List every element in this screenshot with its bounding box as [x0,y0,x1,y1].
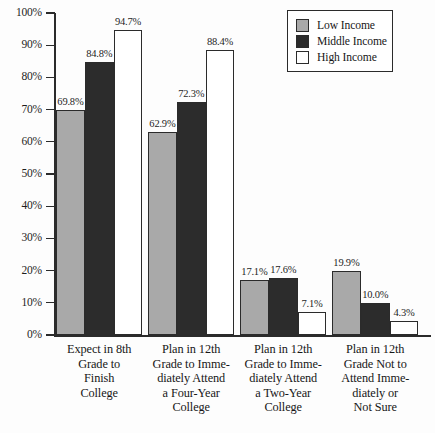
bar-high-income-group-2 [206,50,235,335]
bar-value-label: 17.6% [261,264,306,275]
y-axis-tick [46,206,55,207]
bar-high-income-group-3 [298,312,327,335]
x-axis-label-line: Attend Imme- [319,371,431,386]
y-axis-tick-label: 70% [0,104,42,116]
bar-high-income-group-1 [114,30,143,335]
legend-swatch-high-income-icon [296,51,309,64]
bar-value-label: 7.1% [290,298,335,309]
x-axis-label-line: Not Sure [319,400,431,415]
y-axis-tick-label: 40% [0,200,42,212]
legend-item-middle-income: Middle Income [296,33,385,49]
y-axis-tick [46,238,55,239]
x-axis-label-line: diately or [319,386,431,401]
y-axis-tick-label: 10% [0,297,42,309]
bar-low-income-group-2 [148,132,177,335]
y-axis-tick [46,45,55,46]
legend-swatch-middle-income-icon [296,35,309,48]
legend-label-low-income: Low Income [317,19,375,32]
y-axis-tick [46,334,55,335]
x-axis-line [54,335,431,337]
x-axis-label-group-4: Plan in 12thGrade Not toAttend Imme-diat… [319,342,431,415]
y-axis-tick-label: 60% [0,136,42,148]
bar-value-label: 19.9% [324,257,369,268]
legend-label-middle-income: Middle Income [317,35,387,48]
y-axis-tick [46,77,55,78]
bar-middle-income-group-1 [85,62,114,335]
x-axis-label-line: Grade Not to [319,357,431,372]
y-axis-tick-label: 0% [0,329,42,341]
bar-low-income-group-4 [332,271,361,335]
bar-value-label: 94.7% [106,16,151,27]
y-axis-tick-label: 50% [0,168,42,180]
legend-item-low-income: Low Income [296,17,385,33]
y-axis-tick-label: 90% [0,39,42,51]
x-axis-label-line: Plan in 12th [319,342,431,357]
bar-low-income-group-1 [56,110,85,335]
y-axis-tick-label: 100% [0,7,42,19]
bar-high-income-group-4 [390,321,419,335]
bar-low-income-group-3 [240,280,269,335]
y-axis-tick [46,173,55,174]
bar-value-label: 88.4% [198,36,243,47]
y-axis-tick-label: 30% [0,232,42,244]
bar-chart: 0%10%20%30%40%50%60%70%80%90%100% 69.8%8… [0,0,435,433]
legend-label-high-income: High Income [317,51,377,64]
bar-value-label: 4.3% [382,307,427,318]
bar-middle-income-group-2 [177,102,206,335]
legend-item-high-income: High Income [296,49,385,65]
y-axis-tick [46,302,55,303]
y-axis-tick [46,12,55,13]
y-axis-tick [46,141,55,142]
legend-swatch-low-income-icon [296,19,309,32]
bar-value-label: 10.0% [353,289,398,300]
y-axis-tick [46,270,55,271]
legend: Low Income Middle Income High Income [287,10,393,72]
y-axis-tick-label: 20% [0,265,42,277]
y-axis-tick-label: 80% [0,71,42,83]
y-axis-tick [46,109,55,110]
